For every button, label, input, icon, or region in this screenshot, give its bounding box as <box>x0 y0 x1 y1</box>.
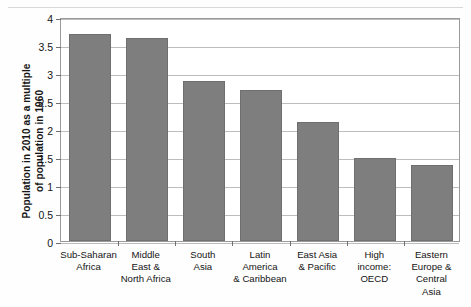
y-axis-tick-label: 3 <box>47 69 53 81</box>
plot-area: 00.511.522.533.54 <box>60 18 460 242</box>
y-axis-tick-label: 1 <box>47 181 53 193</box>
bar <box>354 158 396 241</box>
x-axis-tick-mark <box>175 241 176 246</box>
x-axis-tick-mark <box>404 241 405 246</box>
x-axis-tick-mark <box>290 241 291 246</box>
page-rule <box>8 7 463 8</box>
gridline <box>61 243 459 244</box>
x-axis-category-label: EasternEurope &CentralAsia <box>397 249 466 298</box>
y-axis-tick-label: 3.5 <box>38 41 53 53</box>
x-axis-category-label-line: Europe & <box>397 261 466 273</box>
y-axis-tick-label: 4 <box>47 13 53 25</box>
y-axis-tick-label: 2 <box>47 125 53 137</box>
x-axis-tick-mark <box>118 241 119 246</box>
x-axis-category-label-line: Asia <box>397 286 466 298</box>
bar <box>411 165 453 241</box>
bar <box>297 122 339 241</box>
chart-figure: Population in 2010 as a multiple of popu… <box>0 0 471 307</box>
y-axis-tick-label: 0 <box>47 237 53 249</box>
y-axis-tick-mark <box>56 243 61 244</box>
x-axis-labels: Sub-SaharanAfricaMiddleEast &North Afric… <box>60 249 460 307</box>
x-axis-category-label-line: Central <box>397 273 466 285</box>
x-axis-category-label-line: & Caribbean <box>225 273 294 285</box>
x-axis-tick-mark <box>232 241 233 246</box>
bar <box>183 81 225 241</box>
y-axis-title-line-1: Population in 2010 as a multiple <box>21 64 32 219</box>
x-axis-category-label-line: Eastern <box>397 249 466 261</box>
y-axis-tick-label: 0.5 <box>38 209 53 221</box>
x-axis-category-label-line: North Africa <box>111 273 180 285</box>
bar <box>126 38 168 241</box>
bar <box>240 90 282 241</box>
bar <box>69 34 111 241</box>
x-axis-tick-mark <box>347 241 348 246</box>
y-axis-tick-label: 2.5 <box>38 97 53 109</box>
y-axis-tick-label: 1.5 <box>38 153 53 165</box>
bar-series <box>61 19 459 241</box>
